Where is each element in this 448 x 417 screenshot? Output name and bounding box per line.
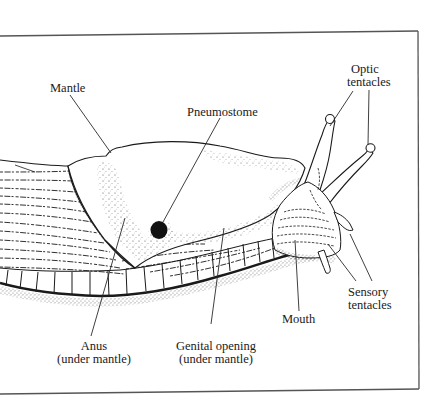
label-mantle: Mantle (50, 82, 85, 95)
label-anus: Anus (under mantle) (54, 340, 134, 366)
label-optic-line2: tentacles (347, 76, 391, 89)
label-sensory-tentacles: Sensory tentacles (348, 286, 392, 312)
slug-anatomy-diagram: Mantle Pneumostome Optic tentacles Senso… (0, 0, 448, 417)
label-anus-line2: (under mantle) (54, 353, 134, 366)
pneumostome-opening (148, 220, 174, 250)
leader-sensory-2 (350, 234, 372, 281)
mantle-shape (68, 142, 305, 268)
leader-optic-right (368, 90, 369, 145)
label-genital-line2: (under mantle) (168, 353, 264, 366)
leader-mantle (70, 95, 111, 153)
label-mouth: Mouth (282, 313, 315, 326)
label-genital-opening: Genital opening (under mantle) (168, 340, 264, 366)
label-pneumostome: Pneumostome (187, 106, 258, 119)
leader-optic-left (330, 91, 353, 126)
label-sensory-line2: tentacles (348, 299, 392, 312)
label-optic-tentacles: Optic tentacles (347, 63, 391, 89)
